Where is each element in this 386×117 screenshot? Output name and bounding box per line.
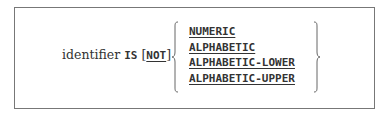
option-numeric: NUMERIC: [189, 24, 295, 40]
option-alphabetic-upper: ALPHABETIC-UPPER: [189, 71, 295, 87]
right-brace-icon: [313, 21, 321, 93]
option-alphabetic-lower: ALPHABETIC-LOWER: [189, 55, 295, 71]
not-keyword: NOT: [146, 49, 166, 62]
is-keyword: IS: [124, 49, 137, 62]
option-list: NUMERIC ALPHABETIC ALPHABETIC-LOWER ALPH…: [189, 24, 295, 86]
left-brace-icon: [171, 21, 179, 93]
identifier-term: identifier: [62, 47, 120, 62]
syntax-lead: identifier IS [NOT]: [62, 47, 171, 62]
option-alphabetic: ALPHABETIC: [189, 40, 295, 56]
